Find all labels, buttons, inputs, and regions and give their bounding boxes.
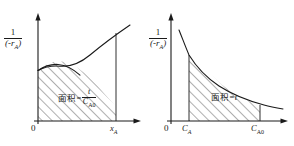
figure-root: 1 (-rA) 0 xA 面积 = t CA0 [0,0,294,146]
left-y-axis-label: 1 (-rA) [4,28,22,50]
left-panel-plot [0,0,147,146]
left-area-text: 面积 [58,94,76,103]
left-area-fraction-denominator: CA0 [82,98,97,108]
right-panel: 1 (-rA) 0 CA CA0 面积 = t [147,0,294,146]
right-panel-plot [147,0,294,146]
right-y-numerator: 1 [154,28,163,37]
right-y-axis-label: 1 (-rA) [149,28,167,50]
right-area-value: t [235,93,237,102]
left-y-numerator: 1 [9,28,18,37]
right-y-denominator: (-rA) [149,39,167,50]
left-origin-label: 0 [31,124,36,133]
right-origin-label: 0 [164,124,169,133]
left-area-fraction: t CA0 [82,88,97,108]
right-area-annotation: 面积 = t [211,93,237,102]
right-xaxis-start-label: CA [182,124,191,135]
right-shaded-area [177,10,277,125]
right-xaxis-end-label: CA0 [251,124,264,135]
left-area-annotation: 面积 = t CA0 [58,88,96,108]
left-area-fraction-numerator: t [86,88,92,96]
left-y-denominator: (-rA) [4,39,22,50]
right-area-text: 面积 [211,93,229,102]
left-panel: 1 (-rA) 0 xA 面积 = t CA0 [0,0,147,146]
left-xaxis-end-label: xA [110,124,117,135]
